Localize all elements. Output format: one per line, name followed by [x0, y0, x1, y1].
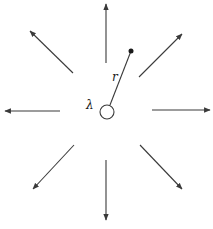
distance-label: r: [112, 70, 119, 84]
line-charge-circle: [100, 105, 114, 119]
arrow-up-right: [139, 34, 182, 77]
charge-label: λ: [85, 98, 94, 112]
arrow-up-left: [30, 31, 73, 73]
field-point: [129, 49, 134, 54]
arrow-down-left: [33, 145, 74, 189]
field-diagram: r λ: [0, 0, 213, 229]
arrow-down-right: [140, 145, 182, 189]
